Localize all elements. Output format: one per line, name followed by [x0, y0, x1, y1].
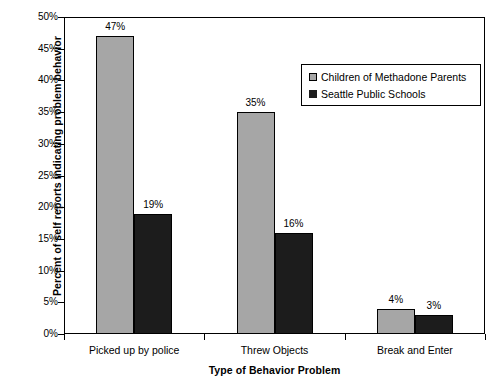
legend: Children of Methadone Parents Seattle Pu…: [301, 64, 481, 106]
legend-item-label: Seattle Public Schools: [321, 89, 425, 100]
y-axis-tick-label: 40%: [24, 75, 58, 85]
y-axis-tick-label: 25%: [24, 171, 58, 181]
bar-value-label: 16%: [269, 219, 319, 229]
x-axis-tick-mark: [485, 334, 486, 340]
y-axis-tick-label: 30%: [24, 139, 58, 149]
y-axis-tick-label: 45%: [24, 44, 58, 54]
y-axis-tick-label: 5%: [24, 297, 58, 307]
legend-item-label: Children of Methadone Parents: [321, 72, 466, 83]
bar: [134, 214, 172, 334]
y-axis-title: Percent of self reports indicating probl…: [51, 6, 63, 326]
bar-value-label: 19%: [128, 200, 178, 210]
x-axis-tick-mark: [204, 334, 205, 340]
y-axis-tick-label: 35%: [24, 107, 58, 117]
x-axis-title: Type of Behavior Problem: [64, 364, 485, 376]
y-axis-tick-label: 15%: [24, 234, 58, 244]
x-axis-category-label: Break and Enter: [345, 344, 485, 356]
bar: [415, 315, 453, 334]
legend-item-seattle-public-schools: Seattle Public Schools: [309, 86, 480, 102]
y-axis-tick-label: 0%: [24, 329, 58, 339]
bar: [275, 233, 313, 334]
bar-value-label: 47%: [90, 22, 140, 32]
x-axis-category-label: Threw Objects: [204, 344, 344, 356]
bar: [377, 309, 415, 334]
legend-swatch-icon: [309, 73, 317, 81]
y-axis-tick-label: 50%: [24, 12, 58, 22]
bar-value-label: 3%: [409, 301, 459, 311]
bar-value-label: 35%: [231, 98, 281, 108]
y-axis-tick-label: 20%: [24, 202, 58, 212]
bar-chart: Percent of self reports indicating probl…: [0, 0, 498, 384]
x-axis-category-label: Picked up by police: [64, 344, 204, 356]
y-axis-tick-label: 10%: [24, 266, 58, 276]
legend-item-children-of-methadone-parents: Children of Methadone Parents: [309, 69, 480, 85]
x-axis-tick-mark: [345, 334, 346, 340]
legend-swatch-icon: [309, 90, 317, 98]
x-axis-tick-mark: [64, 334, 65, 340]
bar: [96, 36, 134, 334]
